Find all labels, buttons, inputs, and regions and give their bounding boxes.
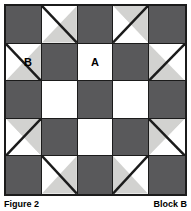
half-square-triangle-icon [42, 6, 77, 43]
figure-caption-row: Figure 2 Block B [4, 199, 187, 211]
patch-fill [78, 119, 113, 156]
quilt-patch-r5c5 [149, 156, 185, 194]
quilt-patch-r1c4 [113, 6, 149, 44]
quilt-patch-r3c4 [113, 81, 149, 119]
patch-fill [113, 44, 148, 81]
patch-fill [149, 81, 185, 118]
half-square-triangle-icon [42, 156, 77, 194]
quilt-patch-r4c2 [42, 119, 78, 157]
half-square-triangle-icon [6, 44, 41, 81]
half-square-triangle-icon [149, 44, 185, 81]
half-square-triangle-icon [113, 6, 148, 43]
half-square-triangle-icon [113, 156, 148, 194]
quilt-block-grid: BA [6, 6, 185, 194]
quilt-patch-r3c2 [42, 81, 78, 119]
patch-fill [149, 156, 185, 194]
quilt-patch-r2c2 [42, 44, 78, 82]
quilt-patch-r1c3 [78, 6, 114, 44]
quilt-patch-r4c1 [6, 119, 42, 157]
quilt-patch-r2c4 [113, 44, 149, 82]
patch-fill [6, 156, 41, 194]
patch-fill [42, 81, 77, 118]
quilt-patch-r5c4 [113, 156, 149, 194]
quilt-patch-r2c5 [149, 44, 185, 82]
quilt-patch-r1c1 [6, 6, 42, 44]
patch-fill [113, 119, 148, 156]
quilt-patch-r3c1 [6, 81, 42, 119]
quilt-patch-r1c5 [149, 6, 185, 44]
patch-fill [6, 6, 41, 43]
quilt-patch-r4c4 [113, 119, 149, 157]
quilt-patch-r5c2 [42, 156, 78, 194]
quilt-patch-r5c1 [6, 156, 42, 194]
quilt-patch-r4c5 [149, 119, 185, 157]
patch-fill [113, 81, 148, 118]
block-name-label: Block B [153, 199, 187, 209]
quilt-patch-r3c3 [78, 81, 114, 119]
figure-number-label: Figure 2 [4, 199, 39, 209]
quilt-patch-r4c3 [78, 119, 114, 157]
quilt-patch-r1c2 [42, 6, 78, 44]
half-square-triangle-icon [149, 119, 185, 156]
quilt-patch-r5c3 [78, 156, 114, 194]
patch-fill [78, 81, 113, 118]
quilt-patch-r3c5 [149, 81, 185, 119]
quilt-block-diagram: BA [4, 4, 187, 196]
patch-fill [78, 6, 113, 43]
patch-fill [149, 6, 185, 43]
patch-fill [78, 156, 113, 194]
figure-root: BA Figure 2 Block B [0, 0, 191, 211]
quilt-patch-r2c3: A [78, 44, 114, 82]
patch-fill [42, 119, 77, 156]
quilt-patch-r2c1: B [6, 44, 42, 82]
half-square-triangle-icon [6, 119, 41, 156]
patch-fill [78, 44, 113, 81]
patch-fill [6, 81, 41, 118]
patch-fill [42, 44, 77, 81]
